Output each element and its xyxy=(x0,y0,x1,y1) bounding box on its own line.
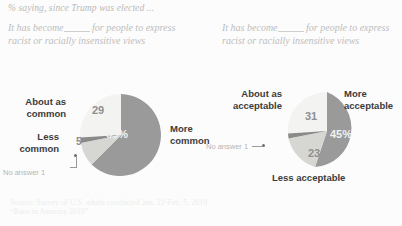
pie-label-less-common: Less common xyxy=(4,131,59,154)
pie-value-less-acceptable: 23 xyxy=(308,147,320,159)
leader-line-noanswer-common-horizontal xyxy=(70,167,77,168)
pie-label-noanswer-acceptable: No answer 1 xyxy=(206,142,248,151)
pie-label-more-acceptable: More acceptable xyxy=(344,88,393,111)
stem-blank-left xyxy=(64,31,90,32)
pie-chart-common: 65% 29 5 xyxy=(78,92,164,178)
stem-blank-right xyxy=(278,31,304,32)
pie-label-about-acceptable: About as acceptable xyxy=(210,88,282,111)
pie-value-less-common: 5 xyxy=(76,136,82,147)
pie-label-about-common: About as common xyxy=(4,96,66,119)
stem-text-before-right: It has become xyxy=(222,22,278,33)
infographic-figure: % saying, since Trump was elected ... It… xyxy=(0,0,402,226)
question-stem-left: It has become for people to express raci… xyxy=(8,22,198,47)
leader-dot-noanswer-acceptable xyxy=(262,144,265,147)
stem-text-before-left: It has become xyxy=(8,22,64,33)
pie-label-noanswer-common: No answer 1 xyxy=(3,168,45,177)
pie-value-more-common: 65% xyxy=(106,128,128,140)
question-stem-right: It has become for people to express raci… xyxy=(222,22,397,47)
pie-value-about-common: 29 xyxy=(92,104,104,116)
source-line-2: “Race in America 2019” xyxy=(10,207,88,217)
page-title: % saying, since Trump was elected ... xyxy=(8,3,154,13)
pie-label-less-acceptable: Less acceptable xyxy=(272,172,345,184)
leader-dot-noanswer-common xyxy=(74,154,77,157)
leader-line-noanswer-acceptable xyxy=(252,146,262,147)
pie-value-more-acceptable: 45% xyxy=(330,128,352,140)
pie-value-about-acceptable: 31 xyxy=(305,110,317,122)
pie-label-more-common: More common xyxy=(170,123,210,146)
